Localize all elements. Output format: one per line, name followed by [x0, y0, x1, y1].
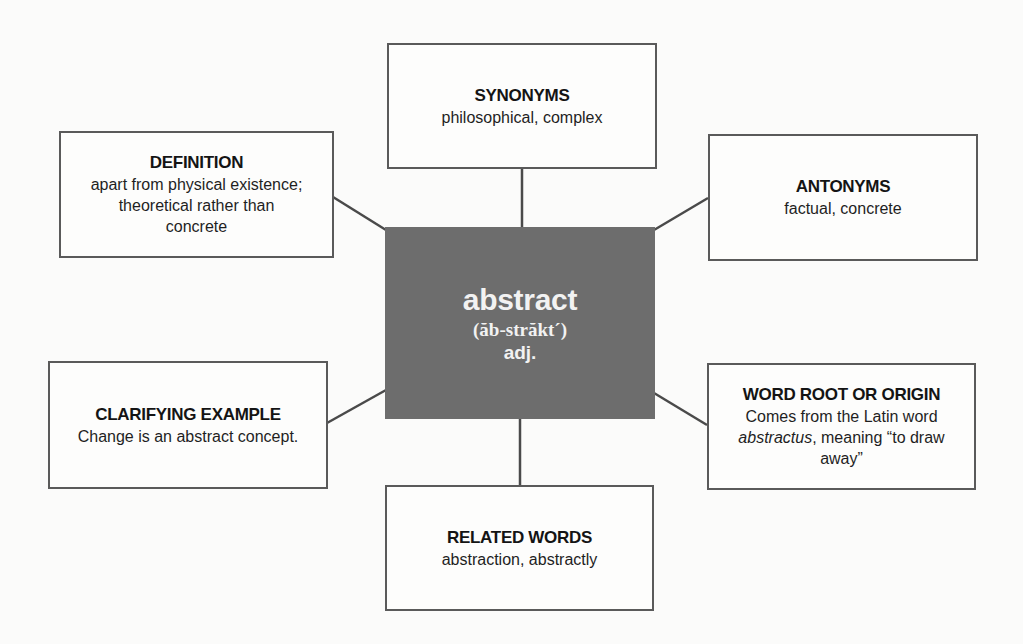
antonyms-box: ANTONYMS factual, concrete	[708, 134, 978, 261]
definition-line-2: theoretical rather than	[119, 195, 275, 216]
clarifying-example-box: CLARIFYING EXAMPLE Change is an abstract…	[48, 361, 328, 489]
term-pronunciation: (ăb-străkt´)	[473, 318, 567, 341]
related-words-heading: RELATED WORDS	[447, 527, 592, 549]
definition-heading: DEFINITION	[150, 152, 243, 174]
synonyms-heading: SYNONYMS	[475, 85, 570, 107]
center-term-box: abstract (ăb-străkt´) adj.	[385, 227, 655, 419]
definition-box: DEFINITION apart from physical existence…	[59, 131, 334, 258]
word-root-latin-word: abstractus	[738, 429, 812, 446]
connector-definition	[333, 197, 386, 230]
term-part-of-speech: adj.	[504, 341, 537, 364]
related-words-box: RELATED WORDS abstraction, abstractly	[385, 485, 654, 611]
word-root-heading: WORD ROOT OR ORIGIN	[743, 384, 940, 406]
connector-antonyms	[654, 198, 708, 230]
word-root-box: WORD ROOT OR ORIGIN Comes from the Latin…	[707, 363, 976, 490]
word-root-line-3: away”	[820, 448, 863, 469]
clarifying-example-text: Change is an abstract concept.	[78, 426, 299, 447]
synonyms-text: philosophical, complex	[442, 107, 603, 128]
synonyms-box: SYNONYMS philosophical, complex	[387, 43, 657, 169]
connector-word-root	[654, 393, 707, 425]
antonyms-heading: ANTONYMS	[796, 176, 891, 198]
word-root-line-2: abstractus, meaning “to draw	[738, 427, 944, 448]
definition-line-1: apart from physical existence;	[91, 174, 303, 195]
word-root-line-1: Comes from the Latin word	[745, 406, 937, 427]
antonyms-text: factual, concrete	[784, 198, 901, 219]
clarifying-example-heading: CLARIFYING EXAMPLE	[95, 404, 280, 426]
word-root-meaning: , meaning “to draw	[812, 429, 945, 446]
definition-line-3: concrete	[166, 216, 227, 237]
connector-clarifying-example	[327, 390, 386, 423]
related-words-text: abstraction, abstractly	[442, 549, 598, 570]
term-word: abstract	[463, 282, 577, 318]
